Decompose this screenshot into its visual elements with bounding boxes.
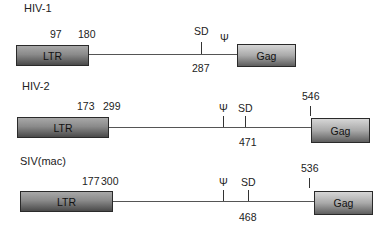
hiv2-gag-box: Gag bbox=[311, 118, 370, 143]
sivmac-gag-start-tick bbox=[309, 178, 310, 188]
hiv1-psi-label: Ψ bbox=[220, 32, 229, 44]
sivmac-ltr-box: LTR bbox=[20, 191, 113, 212]
sivmac-sd-position: 468 bbox=[239, 211, 257, 223]
hiv2-ltr-box: LTR bbox=[17, 117, 109, 138]
sivmac-title: SIV(mac) bbox=[20, 155, 66, 167]
sivmac-sd-tick bbox=[248, 190, 249, 201]
hiv1-sd-tick bbox=[201, 42, 202, 54]
hiv2-leader-line bbox=[109, 127, 311, 128]
sivmac-gag-box: Gag bbox=[314, 191, 373, 215]
hiv1-title: HIV-1 bbox=[24, 2, 52, 14]
hiv2-gag-start-position: 546 bbox=[302, 90, 320, 102]
hiv1-sd-label: SD bbox=[194, 25, 209, 37]
hiv1-gag-box: Gag bbox=[237, 44, 296, 67]
hiv2-psi-tick bbox=[223, 116, 224, 127]
sivmac-psi-label: Ψ bbox=[219, 176, 228, 188]
sivmac-ltr-start-position: 177 bbox=[82, 175, 100, 187]
hiv1-sd-position: 287 bbox=[192, 62, 210, 74]
hiv2-gag-start-tick bbox=[310, 106, 311, 116]
hiv1-ltr-start-position: 97 bbox=[50, 28, 62, 40]
hiv2-ltr-start-position: 173 bbox=[77, 100, 95, 112]
sivmac-gag-start-position: 536 bbox=[301, 162, 319, 174]
hiv1-leader-line bbox=[89, 54, 237, 55]
hiv2-title: HIV-2 bbox=[22, 80, 50, 92]
sivmac-leader-line bbox=[113, 201, 314, 202]
sivmac-ltr-end-position: 300 bbox=[101, 175, 119, 187]
hiv2-sd-position: 471 bbox=[239, 136, 257, 148]
hiv2-psi-label: Ψ bbox=[219, 102, 228, 114]
sivmac-psi-tick bbox=[223, 190, 224, 201]
hiv1-ltr-end-position: 180 bbox=[78, 28, 96, 40]
hiv1-ltr-box: LTR bbox=[16, 45, 89, 66]
sivmac-sd-label: SD bbox=[241, 176, 256, 188]
hiv2-sd-label: SD bbox=[238, 102, 253, 114]
hiv2-sd-tick bbox=[245, 116, 246, 127]
hiv2-ltr-end-position: 299 bbox=[103, 100, 121, 112]
